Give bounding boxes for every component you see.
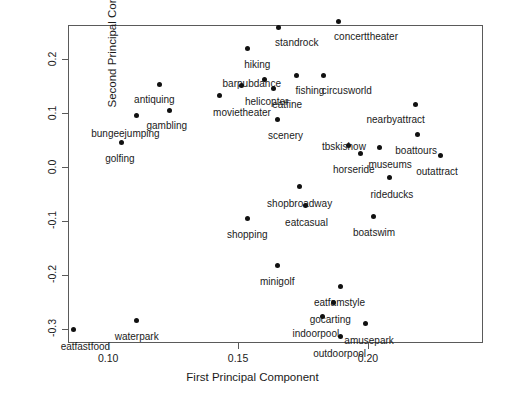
y-axis-label-wrapper: Second Principal Component — [14, 25, 30, 343]
plot-frame — [68, 25, 483, 343]
y-axis-tick — [62, 113, 68, 114]
y-axis-tick — [62, 221, 68, 222]
x-axis-label: First Principal Component — [0, 371, 505, 383]
pca-scatter-figure: standrockconcerttheaterhikingbarpubdance… — [0, 0, 505, 400]
scatter-point — [336, 19, 341, 24]
x-axis-tick — [108, 343, 109, 349]
y-axis-tick-label: 0.2 — [46, 51, 58, 67]
x-axis-tick-label: 0.15 — [228, 352, 248, 364]
y-axis-tick — [62, 167, 68, 168]
y-axis-tick — [62, 275, 68, 276]
x-axis-tick-label: 0.10 — [98, 352, 118, 364]
y-axis-tick — [62, 329, 68, 330]
x-axis-tick-label: 0.20 — [358, 352, 378, 364]
y-axis-label: Second Principal Component — [104, 0, 120, 193]
x-axis-tick — [238, 343, 239, 349]
y-axis-tick-label: 0.1 — [46, 105, 58, 121]
x-axis-tick — [368, 343, 369, 349]
y-axis-tick-label: 0.0 — [46, 159, 58, 175]
scatter-point-label: eatfastfood — [61, 342, 110, 352]
y-axis-tick — [62, 59, 68, 60]
y-axis-tick-label: -0.2 — [46, 267, 58, 283]
y-axis-tick-label: -0.3 — [46, 321, 58, 337]
y-axis-tick-label: -0.1 — [46, 213, 58, 229]
